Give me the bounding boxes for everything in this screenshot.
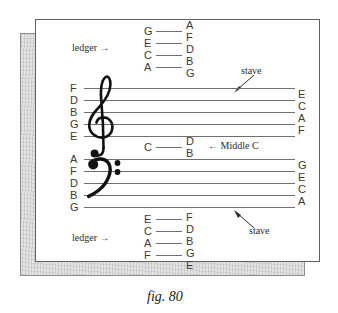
ledger-below-left-letter-1: C xyxy=(144,226,152,237)
stave-top-arrow-icon xyxy=(232,74,256,94)
ledger-above-right-letter-1: F xyxy=(186,32,193,43)
ledger-above-right-letter-4: G xyxy=(186,68,195,79)
figure-caption: fig. 80 xyxy=(147,289,183,305)
treble-right-letter-0: E xyxy=(298,89,305,100)
bass-right-letter-3: A xyxy=(298,196,305,207)
stave-bottom-callout-label: stave xyxy=(249,225,270,236)
treble-left-letter-1: D xyxy=(70,95,78,106)
ledger-line-below-0 xyxy=(156,219,182,220)
ledger-above-left-letter-1: E xyxy=(144,38,151,49)
bass-staff-line-4 xyxy=(84,207,295,208)
ledger-top-callout-label: ledger → xyxy=(72,42,110,53)
treble-right-letter-2: A xyxy=(298,113,305,124)
figure-80: G E C A A F D B G ledger → stave xyxy=(0,0,338,313)
ledger-line-below-3 xyxy=(156,255,182,256)
treble-right-letter-3: F xyxy=(298,125,305,136)
bass-left-letter-0: A xyxy=(70,154,77,165)
ledger-above-right-letter-2: D xyxy=(186,44,194,55)
bass-left-letter-3: B xyxy=(70,190,77,201)
ledger-below-right-letter-1: D xyxy=(186,224,194,235)
middle-c-ledger-line xyxy=(156,147,182,148)
treble-left-letter-3: G xyxy=(70,119,79,130)
bass-right-letter-2: C xyxy=(298,184,306,195)
bass-left-letter-2: D xyxy=(70,178,78,189)
middle-c-left-letter: C xyxy=(144,142,152,153)
ledger-below-left-letter-0: E xyxy=(144,214,151,225)
ledger-line-above-2 xyxy=(156,55,182,56)
treble-left-letter-2: B xyxy=(70,107,77,118)
middle-c-right-letter-1: B xyxy=(186,148,193,159)
diagram-card: G E C A A F D B G ledger → stave xyxy=(35,19,320,262)
treble-right-letter-1: C xyxy=(298,101,306,112)
ledger-below-right-letter-3: G xyxy=(186,248,195,259)
ledger-below-right-letter-2: B xyxy=(186,236,193,247)
bass-clef-icon xyxy=(86,155,128,203)
ledger-bottom-callout-label: ledger → xyxy=(72,232,110,243)
ledger-above-right-letter-0: A xyxy=(186,20,193,31)
treble-clef-icon xyxy=(85,74,121,158)
treble-left-letter-0: F xyxy=(70,83,77,94)
middle-c-right-letter-0: D xyxy=(186,136,194,147)
ledger-below-right-letter-4: E xyxy=(186,260,193,271)
bass-right-letter-1: E xyxy=(298,172,305,183)
ledger-above-left-letter-3: A xyxy=(144,62,151,73)
treble-left-letter-4: E xyxy=(70,131,77,142)
ledger-below-right-letter-0: F xyxy=(186,212,193,223)
bass-right-letter-0: G xyxy=(298,160,307,171)
bass-left-letter-4: G xyxy=(70,202,79,213)
ledger-above-left-letter-0: G xyxy=(144,26,153,37)
ledger-line-above-0 xyxy=(156,31,182,32)
ledger-line-above-1 xyxy=(156,43,182,44)
bass-left-letter-1: F xyxy=(70,166,77,177)
middle-c-callout-label: ← Middle C xyxy=(208,140,259,151)
ledger-above-right-letter-3: B xyxy=(186,56,193,67)
ledger-line-above-3 xyxy=(156,67,182,68)
ledger-line-below-2 xyxy=(156,243,182,244)
ledger-below-left-letter-3: F xyxy=(144,250,151,261)
ledger-line-below-1 xyxy=(156,231,182,232)
ledger-below-left-letter-2: A xyxy=(144,238,151,249)
ledger-above-left-letter-2: C xyxy=(144,50,152,61)
